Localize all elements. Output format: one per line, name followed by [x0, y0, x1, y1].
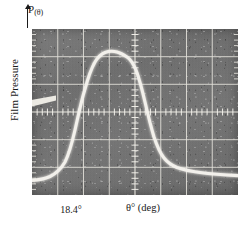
x-axis-label: θ° (deg) [126, 202, 160, 213]
dimension-value-wrap: 18.4° [32, 201, 110, 218]
figure-film-pressure-vs-angle: P(θ) Film Pressure [0, 0, 250, 235]
y-axis-symbol-subscript: (θ) [34, 8, 43, 17]
plot-area [32, 29, 238, 195]
dimension-value: 18.4° [57, 204, 85, 215]
y-axis-symbol: P(θ) [28, 4, 43, 17]
dimension-annotation: 18.4° [32, 201, 110, 219]
left-edge-pointer-marker [32, 96, 56, 109]
scope-trace-svg [32, 29, 238, 195]
y-axis-title: Film Pressure [8, 49, 20, 131]
